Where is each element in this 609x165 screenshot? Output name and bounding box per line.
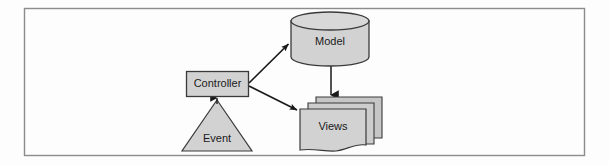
node-controller[interactable]: Controller [187, 72, 249, 97]
views-label: Views [318, 120, 348, 132]
model-label: Model [315, 35, 345, 47]
node-model[interactable]: Model [291, 12, 369, 66]
diagram-canvas: Views Model Event Controller [0, 0, 609, 165]
controller-label: Controller [194, 77, 242, 89]
event-label: Event [203, 132, 231, 144]
mvc-architecture-diagram: Views Model Event Controller [0, 0, 609, 165]
model-cylinder-top [291, 12, 369, 30]
node-views[interactable]: Views [300, 97, 382, 151]
